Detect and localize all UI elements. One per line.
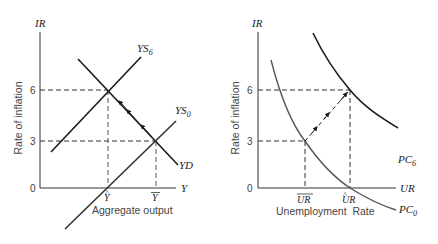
right-xtick-urbar: UR <box>297 194 313 205</box>
right-panel: IR UR 6 3 0 Rate of inflation PC6 PC0 UR <box>229 17 417 218</box>
svg-text:Y: Y <box>152 192 159 203</box>
left-panel: IR Y 6 3 0 Rate of inflation YS6 YS0 YD … <box>12 17 193 229</box>
pc6-curve <box>313 33 398 128</box>
left-xtick-yhat: Y ^ <box>104 189 111 203</box>
right-x-symbol: UR <box>400 182 415 194</box>
yd-arrows <box>120 102 152 137</box>
right-xlabel: Unemployment Rate <box>276 205 375 217</box>
left-x-symbol: Y <box>181 182 189 194</box>
left-xtick-ybar: Y <box>151 192 160 203</box>
left-tick-3: 3 <box>30 136 36 147</box>
ys6-curve <box>51 57 141 152</box>
left-tick-0: 0 <box>30 183 36 194</box>
ys6-label: YS6 <box>137 42 153 57</box>
yd-curve <box>78 59 178 165</box>
svg-text:UR: UR <box>297 194 310 205</box>
left-tick-6: 6 <box>30 85 36 96</box>
right-dashed-arrow <box>305 92 348 141</box>
yd-label: YD <box>179 159 193 171</box>
ys0-label: YS0 <box>175 104 191 119</box>
right-xtick-urhat: UR ^ <box>342 191 355 205</box>
right-y-symbol: IR <box>251 17 263 29</box>
right-tick-3: 3 <box>247 136 253 147</box>
right-tick-0: 0 <box>247 183 253 194</box>
left-xlabel: Aggregate output <box>92 204 173 216</box>
right-tick-6: 6 <box>247 85 253 96</box>
pc6-label: PC6 <box>397 153 416 168</box>
left-y-symbol: IR <box>34 17 46 29</box>
right-ylabel: Rate of inflation <box>229 81 241 154</box>
pc0-label: PC0 <box>398 203 417 218</box>
diagram-canvas: IR Y 6 3 0 Rate of inflation YS6 YS0 YD … <box>0 0 438 244</box>
left-ylabel: Rate of inflation <box>12 81 24 154</box>
